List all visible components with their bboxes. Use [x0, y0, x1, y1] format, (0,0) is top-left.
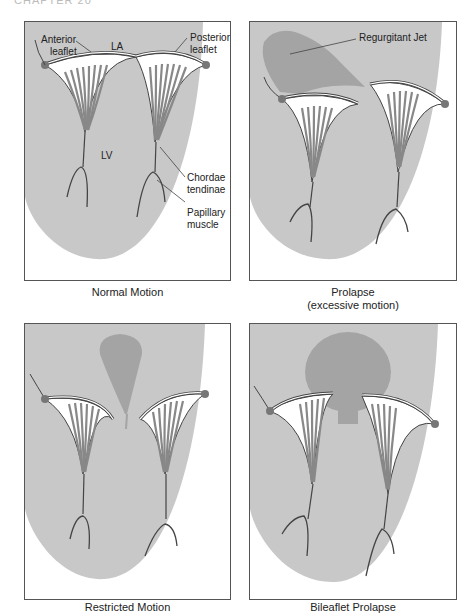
- normal-motion-illustration: [25, 22, 231, 281]
- caption-normal-motion: Normal Motion: [24, 286, 231, 299]
- bileaflet-prolapse-illustration: [250, 324, 457, 600]
- annulus-dot-left: [266, 407, 274, 415]
- panel-bileaflet-prolapse: [249, 323, 457, 600]
- annulus-dot-right: [201, 390, 209, 398]
- panel-prolapse: Regurgitant Jet: [249, 21, 457, 281]
- caption-restricted-motion: Restricted Motion: [24, 601, 231, 614]
- label-posterior-leaflet-line1: Posterior: [190, 32, 230, 43]
- annulus-dot-right: [431, 420, 439, 428]
- label-anterior-leaflet-line1: Anterior: [41, 34, 76, 45]
- panel-normal-motion: Anterior leaflet LA Posterior leaflet LV…: [24, 21, 231, 281]
- annulus-dot-right: [441, 100, 449, 108]
- label-lv: LV: [101, 150, 113, 161]
- restricted-motion-illustration: [25, 324, 231, 600]
- caption-prolapse-line2: (excessive motion): [249, 299, 457, 312]
- label-anterior-leaflet-line2: leaflet: [50, 46, 77, 57]
- panel-restricted-motion: [24, 323, 231, 600]
- label-chordae-line2: tendinae: [187, 184, 225, 195]
- annulus-dot-left: [41, 395, 49, 403]
- label-regurgitant-jet: Regurgitant Jet: [359, 32, 427, 43]
- label-chordae-line1: Chordae: [187, 172, 225, 183]
- label-la: LA: [111, 41, 123, 52]
- caption-prolapse-line1: Prolapse: [249, 286, 457, 299]
- chapter-header: CHAPTER 20: [14, 0, 92, 6]
- caption-bileaflet-prolapse: Bileaflet Prolapse: [249, 601, 457, 614]
- label-papillary-line1: Papillary: [187, 207, 225, 218]
- annulus-dot-right: [202, 61, 210, 69]
- label-posterior-leaflet-line2: leaflet: [190, 44, 217, 55]
- prolapse-illustration: [250, 22, 457, 281]
- caption-prolapse: Prolapse (excessive motion): [249, 286, 457, 312]
- annulus-dot-left: [278, 95, 286, 103]
- label-papillary-line2: muscle: [187, 219, 219, 230]
